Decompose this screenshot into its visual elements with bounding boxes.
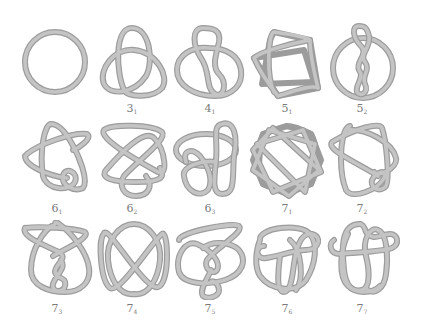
knot-label-6-3: 63 (190, 203, 230, 218)
knot-7-5-diagram (173, 220, 249, 300)
knot-unknot-diagram (17, 22, 93, 102)
knot-label-5-1: 51 (267, 103, 307, 118)
knot-label-7-7: 77 (342, 303, 382, 318)
knot-7-3-diagram (19, 220, 95, 300)
knot-table: 31 41 51 52 (0, 0, 425, 334)
knot-label-6-2: 62 (112, 203, 152, 218)
knot-label-7-5: 75 (190, 303, 230, 318)
knot-label-4-1: 41 (190, 103, 230, 118)
knot-7-4-diagram (96, 220, 172, 300)
knot-3-1-diagram (94, 22, 170, 102)
knot-6-3-diagram (172, 120, 248, 200)
knot-label-7-3: 73 (37, 303, 77, 318)
knot-label-7-4: 74 (112, 303, 152, 318)
knot-label-5-2: 52 (342, 103, 382, 118)
knot-6-2-diagram (96, 120, 172, 200)
knot-label-7-1: 71 (267, 203, 307, 218)
knot-label-7-6: 76 (267, 303, 307, 318)
knot-7-6-diagram (250, 220, 326, 300)
knot-6-1-diagram (19, 120, 95, 200)
knot-label-6-1: 61 (37, 203, 77, 218)
knot-5-2-diagram (325, 22, 401, 102)
knot-5-1-diagram (248, 22, 324, 102)
knot-label-3-1: 31 (112, 103, 152, 118)
knot-label-7-2: 72 (342, 203, 382, 218)
knot-7-2-diagram (326, 120, 402, 200)
knot-7-1-diagram (249, 120, 325, 200)
knot-7-7-diagram (326, 220, 402, 300)
knot-4-1-diagram (171, 22, 247, 102)
